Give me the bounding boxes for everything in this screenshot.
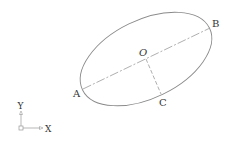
label-c: C — [159, 97, 167, 108]
label-o: O — [139, 47, 147, 58]
diagram-canvas: A B O C Y X — [0, 0, 232, 143]
ucs-icon: Y X — [17, 101, 53, 134]
ucs-x-label: X — [45, 124, 52, 134]
label-a: A — [72, 88, 81, 99]
ellipse — [65, 0, 226, 125]
major-axis-line — [83, 28, 210, 89]
minor-axis-line — [146, 59, 161, 94]
ucs-y-label: Y — [17, 101, 25, 111]
label-b: B — [212, 18, 219, 29]
